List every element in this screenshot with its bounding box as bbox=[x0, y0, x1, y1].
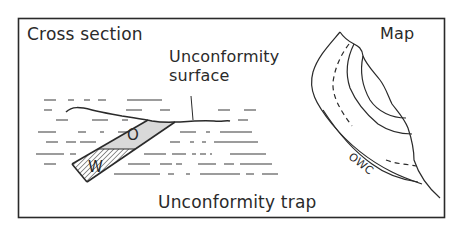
annotation-leader bbox=[191, 96, 193, 120]
water-zone bbox=[72, 149, 135, 182]
unconformity-trap-figure: Cross section Unconformity surface Map O… bbox=[0, 0, 465, 228]
oil-zone-label: O bbox=[127, 126, 139, 144]
unconformity-surface-label: Unconformity surface bbox=[169, 47, 279, 85]
strata-lines bbox=[36, 100, 278, 174]
unconformity-surface-text: Unconformity surface bbox=[169, 47, 279, 85]
cross-section-label: Cross section bbox=[27, 24, 143, 44]
figure-caption: Unconformity trap bbox=[158, 192, 317, 212]
water-zone-label: W bbox=[88, 158, 103, 176]
map-label: Map bbox=[380, 24, 414, 43]
map-contours bbox=[312, 32, 440, 198]
unconformity-surface-line bbox=[66, 108, 230, 123]
